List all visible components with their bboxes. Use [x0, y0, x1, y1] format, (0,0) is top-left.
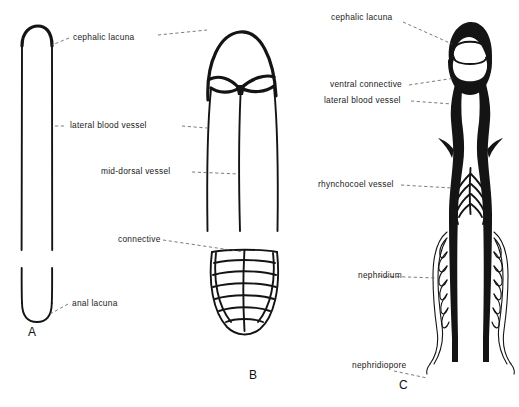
panel-c-right-nephridium-tubule-6 — [492, 308, 499, 328]
leader-ventral-connective-c — [409, 78, 455, 85]
label-rhynchocoel-vessel-c: rhynchocoel vessel — [318, 180, 394, 188]
panel-a-drawing — [21, 26, 52, 322]
diagram-artwork — [0, 0, 519, 407]
caption-panel-b: B — [249, 368, 257, 382]
leader-nephridiopore-c — [394, 371, 427, 378]
panel-c-left-nephridium-rail — [434, 240, 446, 364]
panel-b-left-lateral-vessel — [207, 89, 211, 231]
panel-b-posterior-drawing — [211, 250, 278, 335]
label-anal-lacuna-a: anal lacuna — [72, 299, 118, 307]
leader-cephalic-lacuna-a — [52, 38, 69, 45]
caption-panel-c: C — [399, 378, 408, 392]
panel-c-right-nephridium-rail — [495, 240, 507, 364]
label-cephalic-lacuna-c: cephalic lacuna — [331, 13, 392, 21]
label-nephridium-c: nephridium — [358, 271, 402, 279]
label-cephalic-lacuna-a: cephalic lacuna — [73, 33, 134, 41]
panel-b-head-drawing — [207, 32, 278, 231]
leader-lines — [50, 22, 455, 378]
label-lateral-blood-vessel-c: lateral blood vessel — [324, 96, 401, 104]
panel-c-left-lateral-spur — [438, 138, 454, 158]
panel-c-left-nephridium-tubule-6 — [442, 308, 449, 328]
panel-b-connective-rung-3 — [213, 283, 276, 287]
leader-lateral-blood-vessel-c — [411, 101, 452, 104]
panel-a-left-lateral-wall — [21, 46, 22, 250]
panel-c-left-lateral-vessel — [449, 84, 464, 362]
label-ventral-connective-c: ventral connective — [330, 80, 402, 88]
label-lateral-blood-vessel-a: lateral blood vessel — [70, 121, 147, 129]
panel-c-cephalic-inner-loop — [453, 42, 488, 64]
leader-rhynchocoel-vessel-c — [401, 185, 452, 188]
leader-cephalic-lacuna-c — [403, 22, 452, 44]
panel-c-right-nephridium-tubule-5 — [493, 294, 500, 314]
panel-b-connective-rung-4 — [215, 295, 274, 299]
panel-b-mid-dorsal-vessel — [239, 95, 240, 231]
label-connective-b: connective — [118, 235, 161, 243]
panel-c-right-lateral-spur — [487, 138, 503, 158]
panel-a-anal-lacuna-loop — [22, 303, 52, 322]
leader-cephalic-lacuna-a-to-b — [158, 30, 207, 35]
panel-c-right-nephridiopore — [511, 364, 514, 374]
panel-c-left-nephridium-tubule-5 — [441, 294, 448, 314]
leader-lateral-blood-vessel-b — [182, 126, 207, 128]
label-nephridiopore-c: nephridiopore — [352, 361, 406, 369]
diagram-page: cephalic lacuna lateral blood vessel mid… — [0, 0, 519, 407]
panel-c-left-nephridiopore — [427, 364, 430, 374]
label-mid-dorsal-vessel-b: mid-dorsal vessel — [101, 167, 170, 175]
panel-b-cephalic-loop-right — [241, 76, 274, 92]
panel-c-drawing — [427, 22, 515, 374]
panel-b-cephalic-loop-left — [210, 77, 239, 92]
panel-c-right-lateral-vessel — [477, 84, 492, 362]
panel-b-connective-rung-2 — [213, 271, 276, 275]
panel-b-right-lateral-vessel — [274, 87, 278, 231]
panel-a-cephalic-lacuna-cap — [22, 26, 52, 46]
caption-panel-a: A — [28, 325, 36, 339]
panel-b-vessel-crossing-node — [236, 85, 245, 95]
leader-mid-dorsal-vessel-b — [192, 172, 239, 174]
leader-anal-lacuna-a — [50, 304, 68, 314]
leader-connective-b — [163, 240, 244, 252]
